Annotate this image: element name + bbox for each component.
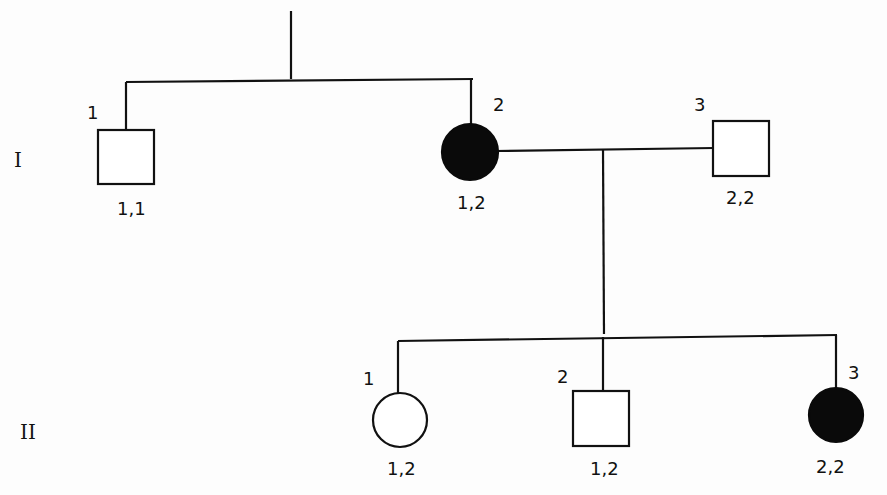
individual-II-2-male <box>573 391 629 446</box>
individual-number-I-3: 3 <box>694 96 705 114</box>
individual-I-1-male <box>98 130 154 184</box>
genotype-I-2: 1,2 <box>457 194 486 212</box>
individual-I-2-female-affected <box>442 124 498 180</box>
generation-label-I: I <box>14 148 22 172</box>
mating-line <box>495 148 714 151</box>
individual-II-3-female-affected <box>809 388 863 442</box>
individual-number-I-2: 2 <box>493 96 504 114</box>
genotype-I-1: 1,1 <box>117 200 146 218</box>
sibship-line-gen-2 <box>398 335 837 341</box>
genotype-II-1: 1,2 <box>387 460 416 478</box>
individual-number-I-1: 1 <box>87 104 98 122</box>
individual-I-3-male <box>713 121 769 176</box>
pedigree-diagram <box>0 0 887 495</box>
genotype-II-2: 1,2 <box>590 460 619 478</box>
individual-number-II-3: 3 <box>848 364 859 382</box>
generation-label-II: II <box>20 420 36 444</box>
individual-number-II-2: 2 <box>557 368 568 386</box>
genotype-II-3: 2,2 <box>816 458 845 476</box>
offspring-descent-line <box>603 150 604 334</box>
individual-number-II-1: 1 <box>363 370 374 388</box>
genotype-I-3: 2,2 <box>726 189 755 207</box>
individual-II-1-female <box>373 393 427 447</box>
sibship-line-gen-1 <box>126 79 473 82</box>
